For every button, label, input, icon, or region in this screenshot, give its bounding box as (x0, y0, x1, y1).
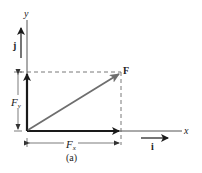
y-axis-label: y (23, 8, 29, 19)
force-vector-label: F (123, 65, 129, 76)
unit-i-label: i (151, 141, 154, 152)
figure-caption: (a) (66, 152, 77, 164)
force-vector-arrow (28, 74, 119, 130)
unit-j-label: j (12, 40, 16, 51)
vector-components-diagram: y x j F Fy Fx i (a) (0, 0, 202, 173)
x-axis-label: x (183, 125, 189, 136)
